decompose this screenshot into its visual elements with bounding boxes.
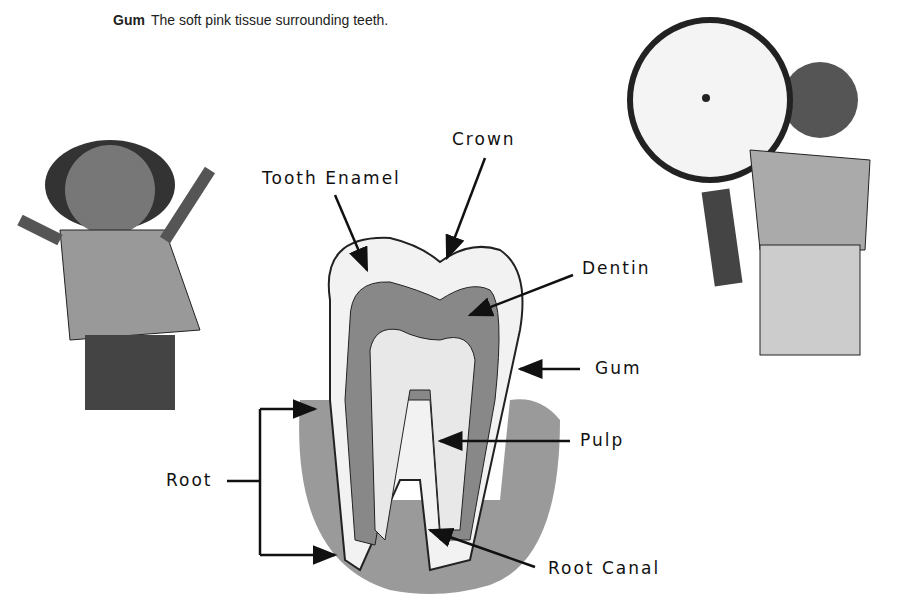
label-gum: Gum <box>595 358 642 378</box>
child-illustration-right <box>630 20 870 355</box>
label-pulp: Pulp <box>580 430 624 450</box>
label-root-canal: Root Canal <box>548 558 660 578</box>
label-root: Root <box>166 470 213 490</box>
label-tooth-enamel: Tooth Enamel <box>262 168 401 188</box>
child-illustration-left <box>20 140 210 410</box>
label-crown: Crown <box>452 129 516 149</box>
tooth-diagram <box>0 0 907 605</box>
label-dentin: Dentin <box>582 258 651 278</box>
